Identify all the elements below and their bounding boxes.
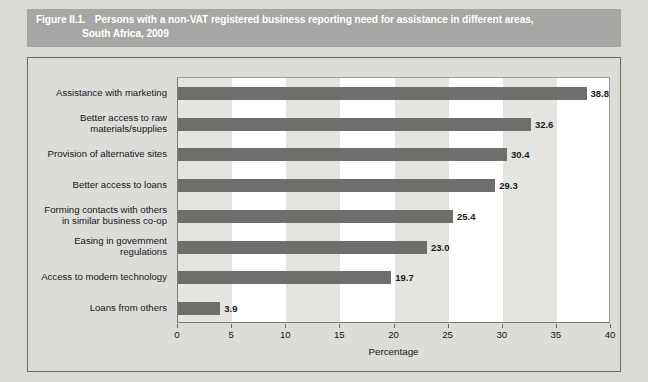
bar-row[interactable]: 25.4 [178,209,609,223]
bar-value-label: 25.4 [457,210,476,223]
bar[interactable] [178,148,507,161]
x-tick-mark [556,324,557,328]
bar-value-label: 29.3 [499,179,518,192]
category-axis-labels: Assistance with marketingBetter access t… [28,77,173,323]
bar[interactable] [178,241,427,254]
plot-area: 38.832.630.429.325.423.019.73.9 [177,77,610,323]
bar-value-label: 3.9 [224,302,237,315]
figure-card: Assistance with marketingBetter access t… [27,57,621,372]
figure-title-line-2: South Africa, 2009 [36,27,613,41]
category-label: Provision of alternative sites [24,148,167,160]
category-label: Assistance with marketing [24,87,167,99]
category-label: Easing in government regulations [24,235,167,258]
x-axis: 0510152025303540 [177,324,612,346]
x-tick-mark [448,324,449,328]
bar-row[interactable]: 38.8 [178,86,609,100]
bar-value-label: 23.0 [431,241,450,254]
x-tick-label: 10 [280,329,291,340]
figure-page: Figure II.1.Persons with a non-VAT regis… [0,0,648,382]
bar[interactable] [178,271,391,284]
x-tick-label: 25 [442,329,453,340]
figure-title-line-1: Figure II.1.Persons with a non-VAT regis… [36,13,613,27]
figure-title-text: Persons with a non-VAT registered busine… [95,14,534,25]
bar-row[interactable]: 23.0 [178,240,609,254]
x-tick-mark [231,324,232,328]
x-tick-label: 40 [605,329,616,340]
category-label: Better access to raw materials/supplies [24,112,167,135]
bar-row[interactable]: 3.9 [178,302,609,316]
figure-number: Figure II.1. [36,14,86,25]
x-tick-mark [177,324,178,328]
x-tick-mark [610,324,611,328]
bar-row[interactable]: 32.6 [178,117,609,131]
bar-value-label: 19.7 [395,271,414,284]
x-tick-label: 0 [174,329,179,340]
x-tick-label: 5 [228,329,233,340]
bar-row[interactable]: 19.7 [178,271,609,285]
bars-container: 38.832.630.429.325.423.019.73.9 [178,78,609,322]
x-tick-mark [394,324,395,328]
x-axis-title: Percentage [177,346,610,357]
x-tick-mark [339,324,340,328]
x-tick-label: 30 [496,329,507,340]
bar[interactable] [178,302,220,315]
bar-value-label: 38.8 [591,87,610,100]
x-tick-label: 15 [334,329,345,340]
category-label: Better access to loans [24,179,167,191]
bar[interactable] [178,118,531,131]
bar[interactable] [178,87,587,100]
bar[interactable] [178,210,453,223]
x-tick-label: 35 [551,329,562,340]
figure-title-banner: Figure II.1.Persons with a non-VAT regis… [27,9,621,47]
category-label: Access to modern technology [24,271,167,283]
x-tick-label: 20 [388,329,399,340]
category-label: Forming contacts with others in similar … [24,204,167,227]
category-label: Loans from others [24,302,167,314]
bar[interactable] [178,179,495,192]
x-tick-mark [285,324,286,328]
bar-row[interactable]: 30.4 [178,148,609,162]
bar-row[interactable]: 29.3 [178,179,609,193]
x-tick-mark [502,324,503,328]
bar-value-label: 30.4 [511,148,530,161]
bar-value-label: 32.6 [535,118,554,131]
